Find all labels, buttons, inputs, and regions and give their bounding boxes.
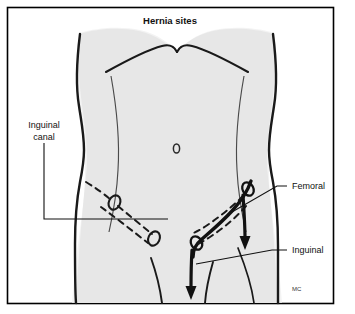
inguinal-canal-label-line2: canal	[33, 132, 55, 142]
hernia-diagram-canvas: 0	[0, 0, 355, 314]
inguinal-label: Inguinal	[292, 245, 324, 255]
femoral-label: Femoral	[292, 181, 325, 191]
torso-illustration: 0	[72, 28, 282, 303]
inguinal-hernia-arrow-shaft	[191, 250, 192, 288]
torso-fill	[76, 29, 278, 303]
figure-title: Hernia sites	[143, 15, 197, 26]
inguinal-canal-label-line1: Inguinal	[28, 120, 60, 130]
artist-signature: MC	[292, 286, 302, 292]
hernia-sites-figure: 0	[0, 0, 355, 314]
